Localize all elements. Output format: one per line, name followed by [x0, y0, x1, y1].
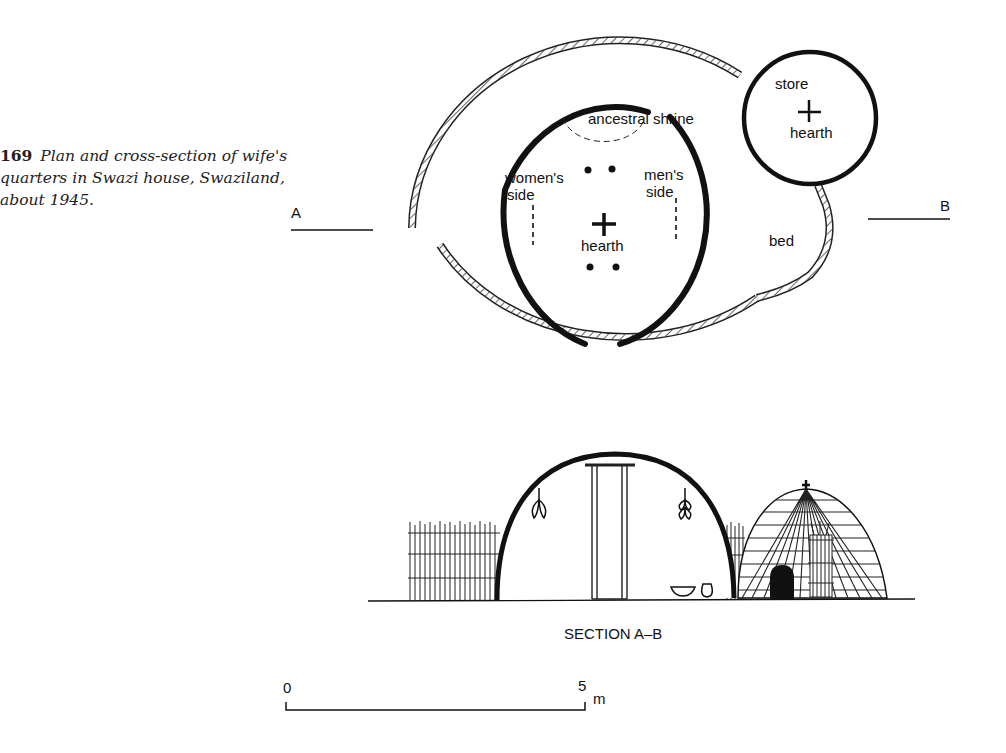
- label-womens-side-1: women's: [504, 169, 564, 186]
- label-mens-side-2: side: [646, 183, 674, 200]
- scale-bar: 0 5 m: [283, 677, 606, 710]
- main-hut-dome: [497, 454, 734, 600]
- label-store: store: [775, 75, 808, 92]
- scale-unit-label: m: [593, 690, 606, 707]
- cross-section: SECTION A–B: [368, 454, 915, 642]
- diagram-canvas: ancestral shrine women's side men's side…: [0, 0, 1006, 753]
- section-marker-b: B: [868, 197, 950, 219]
- section-marker-a: A: [291, 204, 373, 230]
- scale-start-label: 0: [283, 679, 291, 696]
- label-mens-side-1: men's: [644, 166, 684, 183]
- store-door: [770, 565, 794, 599]
- label-ancestral-shrine: ancestral shrine: [588, 110, 694, 127]
- label-bed: bed: [769, 232, 794, 249]
- svg-text:B: B: [940, 197, 950, 214]
- label-store-hearth: hearth: [790, 124, 833, 141]
- label-hearth: hearth: [581, 237, 624, 254]
- reed-fence-left: [408, 521, 500, 601]
- section-title: SECTION A–B: [564, 625, 662, 642]
- svg-text:A: A: [291, 204, 301, 221]
- roof-posts: [585, 166, 620, 271]
- scale-end-label: 5: [578, 677, 586, 694]
- label-womens-side-2: side: [507, 186, 535, 203]
- hearth-cross-icon: [592, 213, 616, 236]
- floor-plan: ancestral shrine women's side men's side…: [291, 40, 950, 344]
